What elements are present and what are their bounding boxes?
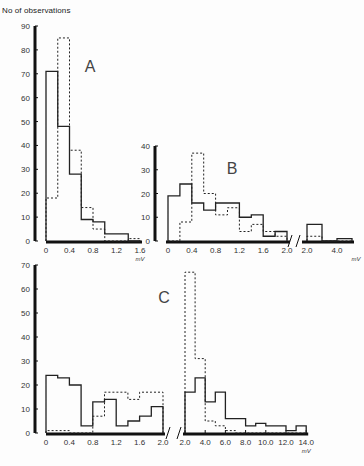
y-tick-label: 50 [21,309,30,318]
x-tick-label: 12.0 [278,438,294,447]
series-solid [168,184,287,241]
x-tick-label: 10.0 [258,438,274,447]
x-tick-label: 1.2 [234,246,246,255]
panel-B [155,146,354,247]
y-tick-label: 40 [21,141,30,150]
series-dashed [46,392,163,433]
y-tick-label: 0 [146,237,151,246]
x-tick-label: 0.4 [64,438,76,447]
x-tick-label: 4.0 [200,438,212,447]
x-tick-label: 1.2 [111,246,123,255]
x-tick-label: 0.8 [87,438,99,447]
x-tick-label: 6.0 [220,438,232,447]
y-tick-label: 40 [21,333,30,342]
x-tick-label: 1.6 [258,246,270,255]
series-solid [307,224,352,241]
histogram-figure: 010203040506070809000.40.81.21.6mVA01020… [0,0,364,466]
panel-label-C: C [158,289,170,306]
panel-label-A: A [85,58,96,75]
y-tick-label: 40 [141,142,150,151]
y-tick-label: 30 [21,165,30,174]
y-tick-label: 20 [21,189,30,198]
y-tick-label: 60 [21,94,30,103]
y-tick-label: 30 [21,357,30,366]
x-tick-label: 4.0 [331,246,343,255]
x-tick-label: 8.0 [240,438,252,447]
axis-break [296,235,300,247]
x-tick-label: 0.4 [186,246,198,255]
y-tick-label: 60 [21,285,30,294]
x-unit: mV [302,448,312,454]
y-tick-label: 50 [21,118,30,127]
x-tick-label: 1.6 [134,246,146,255]
y-tick-label: 30 [141,166,150,175]
x-tick-label: 2.0 [301,246,313,255]
x-unit: mV [136,256,146,262]
series-dashed [185,272,306,433]
y-tick-label: 90 [21,22,30,31]
x-tick-label: 2.0 [157,438,169,447]
x-tick-label: 14.0 [298,438,314,447]
y-tick-label: 10 [21,213,30,222]
y-tick-label: 0 [26,237,31,246]
series-solid [46,71,140,241]
y-tick-label: 20 [141,190,150,199]
panel-C [35,265,308,439]
x-tick-label: 0 [44,438,49,447]
x-unit: mV [352,256,362,262]
series-solid [185,378,306,433]
x-tick-label: 0.8 [210,246,222,255]
y-tick-label: 10 [21,405,30,414]
x-tick-label: 0.4 [64,246,76,255]
panel-label-B: B [227,160,238,177]
y-tick-label: 70 [21,70,30,79]
x-tick-label: 2.0 [179,438,191,447]
x-tick-label: 0 [44,246,49,255]
y-tick-label: 10 [141,213,150,222]
x-tick-label: 0 [166,246,171,255]
x-tick-label: 1.2 [111,438,123,447]
y-tick-label: 20 [21,381,30,390]
y-tick-label: 0 [26,429,31,438]
x-tick-label: 0.8 [87,246,99,255]
y-tick-label: 70 [21,261,30,270]
x-tick-label: 1.6 [134,438,146,447]
x-tick-label: 2.0 [281,246,293,255]
y-tick-label: 80 [21,46,30,55]
